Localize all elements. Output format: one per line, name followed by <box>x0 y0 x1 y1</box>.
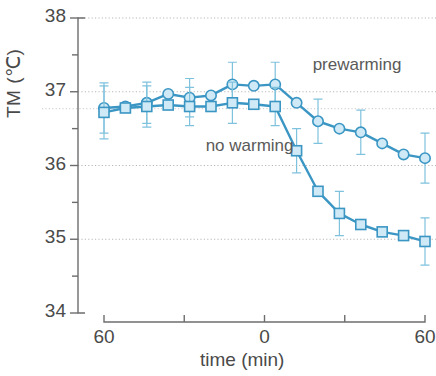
y-tick-label: 38 <box>32 5 66 27</box>
data-point-marker <box>291 98 301 108</box>
series-label-prewarming: prewarming <box>313 55 402 75</box>
data-point-marker <box>185 102 195 112</box>
y-tick-label: 36 <box>32 153 66 175</box>
y-tick-label: 35 <box>32 226 66 248</box>
data-point-marker <box>163 89 173 99</box>
data-point-marker <box>399 231 409 241</box>
series-label-no-warming: no warming <box>206 136 294 156</box>
data-point-marker <box>142 102 152 112</box>
data-point-marker <box>249 81 259 91</box>
data-point-marker <box>420 236 430 246</box>
data-point-marker <box>120 103 130 113</box>
data-point-marker <box>420 153 430 163</box>
data-point-marker <box>356 220 366 230</box>
series-line <box>104 103 425 242</box>
data-point-marker <box>313 186 323 196</box>
data-point-marker <box>377 138 387 148</box>
x-tick-label: 60 <box>405 326 436 348</box>
data-point-marker <box>356 127 366 137</box>
data-point-marker <box>163 100 173 110</box>
series-prewarming <box>99 62 430 183</box>
data-point-marker <box>377 227 387 237</box>
y-tick-label: 34 <box>32 300 66 322</box>
data-point-marker <box>227 98 237 108</box>
data-point-marker <box>334 123 344 133</box>
data-point-marker <box>206 102 216 112</box>
data-point-marker <box>99 107 109 117</box>
y-tick-label: 37 <box>32 79 66 101</box>
data-point-marker <box>270 102 280 112</box>
x-axis-label: time (min) <box>200 349 284 371</box>
chart-figure: TM (℃) time (min) 343536373860060prewarm… <box>0 0 436 376</box>
data-point-marker <box>249 99 259 109</box>
x-tick-label: 0 <box>245 326 285 348</box>
x-tick-label: 60 <box>84 326 124 348</box>
data-point-marker <box>334 208 344 218</box>
data-point-marker <box>313 116 323 126</box>
series-no-warming <box>99 82 430 265</box>
data-point-marker <box>398 149 408 159</box>
data-point-marker <box>206 90 216 100</box>
y-axis-label: TM (℃) <box>2 0 25 118</box>
